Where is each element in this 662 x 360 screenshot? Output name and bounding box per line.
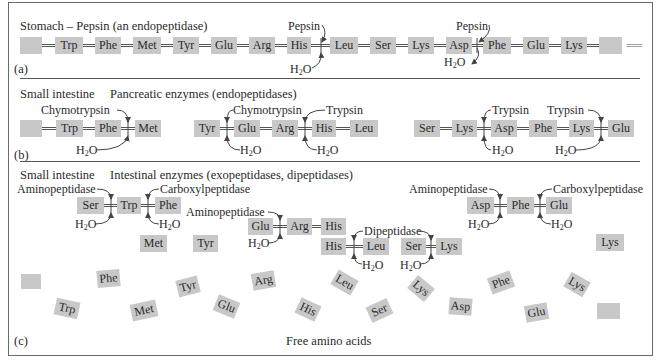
cleaved-bond [220,127,234,130]
peptide-bond [83,127,95,130]
water-label: H2O [240,144,261,160]
water-label: H2O [362,259,383,275]
cleaved-bond [104,204,117,207]
residue-box: Leu [350,120,378,137]
cleaved-bond [298,127,312,130]
residue-box: Trp [56,120,83,137]
peptide-bond [440,127,452,130]
trypsin-label: Trypsin [492,104,529,117]
peptide-bond [336,127,350,130]
residue-box: His [312,120,336,137]
panel-b-tag: (b) [14,148,29,162]
residue-box: Tyr [194,120,220,137]
residue-box: Arg [287,218,312,235]
aminopeptidase-label: Aminopeptidase [409,183,488,196]
peptide-bond [312,225,321,228]
peptide-bond [434,44,446,47]
peptide-bond [260,127,272,130]
cleaved-bond [141,204,155,207]
residue-box: Lys [561,37,587,54]
free-amino-acids-caption: Free amino acids [286,334,371,348]
residue-box: His [321,238,346,255]
panel-c-location: Small intestine [20,168,95,182]
cleaved-bond [311,44,330,47]
residue-box: Asp [467,197,494,214]
residue-box: Leu [330,37,358,54]
peptide-bond [237,44,249,47]
residue-box: Met [135,120,161,137]
residue-box: Trp [55,37,83,54]
residue-box: His [287,37,311,54]
residue-box: Phe [507,197,534,214]
carboxylpeptidase-label: Carboxylpeptidase [160,183,250,196]
residue-box: His [321,218,346,235]
panel-a-heading: Stomach – Pepsin (an endopeptidase) [20,19,207,33]
dipeptidase-label: Dipeptidase [364,225,421,238]
residue-box: Lys [452,120,477,137]
free-residue-nterm [21,274,41,289]
cleaved-bond [346,245,363,248]
panel-b-location: Small intestine [20,87,95,101]
residue-box: Ser [414,120,440,137]
residue-box: Glu [608,120,634,137]
peptide-bond [121,44,133,47]
water-label: H2O [76,144,97,160]
water-label: H2O [248,237,269,253]
water-label: H2O [400,259,421,275]
residue-box: Ser [77,197,104,214]
residue-box: Tyr [173,37,199,54]
peptide-bond [517,127,529,130]
water-label: H2O [468,218,489,234]
water-label: H2O [75,218,96,234]
residue-box: Glu [211,37,237,54]
residue-box: Arg [249,37,275,54]
water-label: H2O [317,144,338,160]
cleaved-bond [426,245,436,248]
residue-box: Phe [529,120,557,137]
residue-box: Phe [95,37,121,54]
cleaved-bond [494,204,507,207]
peptide-bond [549,44,561,47]
residue-box-nterm [20,37,42,54]
trypsin-label: Trypsin [547,104,584,117]
panel-b-enzymes: Pancreatic enzymes (endopeptidases) [110,87,297,101]
separator-ab [20,78,640,79]
chymotrypsin-label: Chymotrypsin [41,104,110,117]
cleaved-bond [472,44,483,47]
panel-a-tag: (a) [14,62,28,76]
free-residue: Asp [448,297,472,316]
cleaved-bond [594,127,608,130]
residue-box: Phe [483,37,511,54]
water-label-a1: H2O [290,63,311,79]
residue-box: Trp [117,197,141,214]
peptide-bond [83,44,95,47]
peptide-bond [358,44,370,47]
free-residue-cterm [597,303,620,319]
water-label: H2O [551,218,572,234]
pepsin-label-2: Pepsin [456,20,488,33]
panel-c-enzymes: Intestinal enzymes (exopeptidases, dipep… [110,168,353,182]
peptide-bond [511,44,523,47]
residue-box: Arg [272,120,298,137]
residue-box: Lys [436,238,462,255]
cleaved-bond [121,127,135,130]
residue-box: Phe [95,120,121,137]
peptide-bond [557,127,569,130]
chymotrypsin-label: Chymotrypsin [233,104,302,117]
peptide-bond [42,127,56,130]
residue-box: Glu [546,197,572,214]
water-label: H2O [555,144,576,160]
residue-box-cterm [599,37,622,54]
residue-box: Leu [363,238,389,255]
free-residue: Phe [96,269,120,288]
residue-box: Ser [401,238,426,255]
peptide-bond [396,44,408,47]
residue-box: Glu [523,37,549,54]
separator-bc [20,161,640,162]
residue-box: Lys [569,120,594,137]
pepsin-label-1: Pepsin [288,20,320,33]
residue-box: Asp [446,37,472,54]
trypsin-label: Trypsin [326,104,363,117]
residue-box: Met [133,37,161,54]
cleaved-bond [477,127,491,130]
